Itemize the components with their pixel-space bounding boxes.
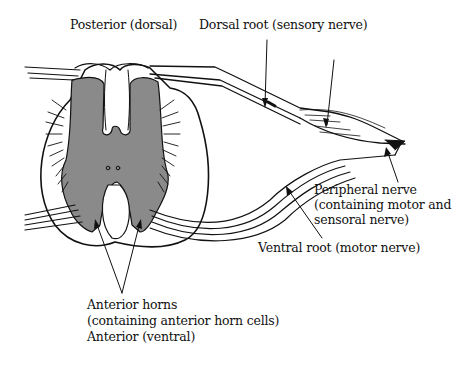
ganglion-pointer [327, 60, 334, 125]
label-peripheral-nerve-3: sensoral nerve) [314, 212, 409, 227]
posterior-column [105, 70, 130, 130]
dorsal-root-left [25, 67, 80, 80]
label-posterior: Posterior (dorsal) [70, 17, 177, 32]
dorsal-root-pointer [265, 40, 267, 105]
label-anterior-horns-detail: (containing anterior horn cells) [87, 313, 279, 328]
label-ventral-root: Ventral root (motor nerve) [258, 240, 420, 255]
dorsal-root-right [150, 66, 405, 144]
label-anterior-horns: Anterior horns [87, 297, 177, 312]
peripheral-nerve-tip [385, 140, 405, 150]
label-peripheral-nerve-1: Peripheral nerve [314, 182, 417, 197]
label-dorsal-root: Dorsal root (sensory nerve) [199, 17, 367, 32]
dorsal-root-ganglion [300, 110, 385, 136]
label-peripheral-nerve-2: (containing motor and [314, 197, 451, 212]
label-anterior: Anterior (ventral) [87, 329, 195, 344]
anterior-fissure [102, 185, 129, 239]
spinal-cord-diagram: Posterior (dorsal) Dorsal root (sensory … [0, 0, 452, 368]
